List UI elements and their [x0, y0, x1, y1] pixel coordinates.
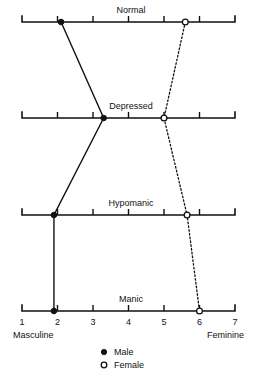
axis-tick-label-2: 2 [55, 317, 60, 327]
data-point-male-manic [51, 308, 57, 314]
series-line-male [54, 22, 104, 311]
panel-title-hypomanic: Hypomanic [108, 198, 154, 208]
data-point-male-depressed [101, 115, 107, 121]
data-point-female-manic [197, 308, 203, 314]
series-line-female [164, 22, 200, 311]
data-point-male-normal [58, 19, 64, 25]
axis-pole-label-feminine: Feminine [207, 330, 244, 340]
legend-group: MaleFemale [101, 347, 144, 370]
legend-label-male: Male [114, 347, 134, 357]
axis-tick-label-1: 1 [19, 317, 24, 327]
axis-tick-label-4: 4 [126, 317, 131, 327]
panel-title-manic: Manic [119, 294, 144, 304]
profile-plot: NormalDepressedHypomanicManic 1234567Mas… [0, 0, 262, 383]
axis-tick-label-3: 3 [90, 317, 95, 327]
legend-label-female: Female [114, 360, 144, 370]
legend-marker-male [101, 349, 106, 354]
data-point-female-normal [182, 19, 188, 25]
data-point-female-depressed [161, 115, 167, 121]
data-point-male-hypomanic [51, 212, 57, 218]
axis-tick-label-5: 5 [161, 317, 166, 327]
axis-pole-label-masculine: Masculine [13, 330, 54, 340]
panel-title-depressed: Depressed [109, 101, 153, 111]
series-group [51, 19, 202, 314]
panel-title-normal: Normal [116, 5, 145, 15]
axis-tick-label-7: 7 [232, 317, 237, 327]
legend-marker-female [101, 362, 107, 368]
data-point-female-hypomanic [184, 212, 190, 218]
axis-tick-label-6: 6 [197, 317, 202, 327]
axis-label-group: 1234567MasculineFeminine [13, 317, 244, 340]
figure-container: NormalDepressedHypomanicManic 1234567Mas… [0, 0, 262, 383]
